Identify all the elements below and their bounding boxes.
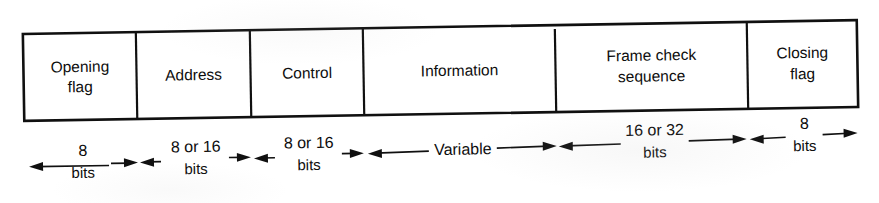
frame-diagram-canvas: Opening flag Address Control Information: [0, 0, 879, 203]
size-annotation-row: 8 bits 8 or 16 bits: [28, 114, 858, 182]
size-unit-fcs: bits: [643, 143, 667, 160]
arrowhead-left-closing: [750, 135, 764, 144]
cell-fcs-label-line2: sequence: [618, 67, 686, 85]
cell-control-label: Control: [282, 64, 332, 82]
arrowhead-right-closing: [844, 129, 858, 138]
cell-closing-flag: Closing flag: [776, 44, 828, 83]
size-value-fcs: 16 or 32: [625, 121, 684, 139]
size-unit-control: bits: [297, 156, 321, 173]
arrowhead-right-control: [350, 149, 364, 158]
cell-closing-flag-label-line1: Closing: [776, 44, 828, 62]
divider-address-control: [250, 30, 251, 117]
arrowhead-right-opening: [124, 158, 138, 167]
cell-opening-flag-label-line1: Opening: [50, 58, 109, 76]
size-annotation-information: Variable: [368, 139, 557, 159]
measure-line-information-left: [376, 151, 429, 153]
divider-opening-address: [136, 32, 137, 119]
size-annotation-address: 8 or 16 bits: [140, 137, 252, 178]
arrowhead-left-address: [140, 158, 154, 167]
divider-fcs-closing: [747, 22, 748, 109]
divider-information-fcs: [555, 29, 556, 112]
measure-line-information-right: [497, 146, 549, 148]
arrowhead-right-information: [543, 142, 557, 151]
size-value-address: 8 or 16: [171, 138, 221, 156]
cell-fcs-label-line1: Frame check: [606, 46, 696, 64]
measure-line-fcs-right: [689, 139, 739, 141]
cell-frame-check-sequence: Frame check sequence: [606, 46, 696, 85]
frame-cell-labels: Opening flag Address Control Information: [50, 44, 828, 96]
arrowhead-right-address: [237, 153, 251, 162]
arrowhead-left-opening: [29, 162, 43, 171]
size-value-control: 8 or 16: [284, 134, 334, 152]
size-value-closing-flag: 8: [800, 115, 809, 132]
measure-line-fcs-left: [567, 144, 621, 146]
cell-opening-flag: Opening flag: [50, 58, 109, 96]
arrowhead-left-control: [254, 154, 268, 163]
frame-format-diagram: Opening flag Address Control Information: [0, 0, 879, 203]
size-annotation-control: 8 or 16 bits: [254, 133, 365, 174]
cell-closing-flag-label-line2: flag: [790, 65, 815, 82]
cell-information: Information: [421, 61, 499, 79]
size-unit-address: bits: [184, 160, 208, 177]
cell-address: Address: [165, 66, 222, 84]
size-annotation-opening-flag: 8 bits: [29, 141, 139, 182]
cell-opening-flag-label-line2: flag: [68, 78, 93, 95]
cell-control: Control: [282, 64, 332, 82]
size-value-information: Variable: [434, 140, 492, 158]
size-annotation-closing-flag: 8 bits: [749, 114, 858, 155]
divider-control-information: [363, 28, 364, 115]
size-value-opening-flag: 8: [78, 142, 87, 159]
size-unit-closing-flag: bits: [793, 137, 817, 154]
cell-address-label: Address: [165, 66, 222, 84]
arrowhead-left-information: [368, 149, 382, 158]
size-unit-opening-flag: bits: [71, 164, 95, 181]
arrowhead-right-fcs: [733, 134, 747, 143]
cell-information-label: Information: [421, 61, 499, 79]
size-annotation-fcs: 16 or 32 bits: [558, 120, 747, 162]
arrowhead-left-fcs: [559, 142, 573, 151]
